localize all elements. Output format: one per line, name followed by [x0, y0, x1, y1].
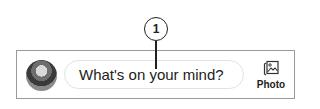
callout-line: [155, 41, 157, 69]
photo-icon: [263, 60, 279, 76]
photo-label: Photo: [257, 79, 285, 90]
photo-button[interactable]: Photo: [254, 56, 288, 96]
avatar[interactable]: [26, 60, 57, 91]
callout-marker: 1: [144, 17, 168, 41]
status-input-placeholder: What's on your mind?: [79, 66, 224, 83]
status-input[interactable]: What's on your mind?: [64, 60, 244, 89]
